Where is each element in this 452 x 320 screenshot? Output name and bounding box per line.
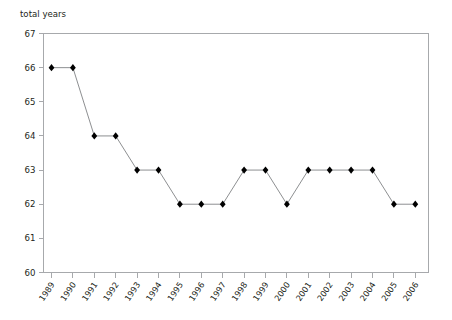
chart-frame xyxy=(44,34,429,273)
x-axis-tick-labels: 1989199019911992199319941995199619971998… xyxy=(37,280,421,303)
y-axis-tick-labels: 6061626364656667 xyxy=(25,29,36,278)
y-axis-title: total years xyxy=(20,9,67,19)
x-tick-label-2000: 2000 xyxy=(272,280,292,303)
x-tick-label-1998: 1998 xyxy=(229,280,249,303)
series-line-total-years xyxy=(52,68,416,205)
data-point-1991 xyxy=(91,132,97,139)
x-tick-label-2006: 2006 xyxy=(401,280,421,303)
data-point-1990 xyxy=(70,64,76,71)
y-tick-label-67: 67 xyxy=(25,29,36,39)
y-axis-ticks xyxy=(39,34,44,273)
y-tick-label-63: 63 xyxy=(25,165,36,175)
x-tick-label-1995: 1995 xyxy=(165,280,185,303)
x-tick-label-1997: 1997 xyxy=(208,280,228,303)
x-tick-label-2003: 2003 xyxy=(336,280,356,303)
x-tick-label-1999: 1999 xyxy=(251,280,271,303)
y-tick-label-62: 62 xyxy=(25,199,36,209)
data-point-2002 xyxy=(327,166,333,173)
y-tick-label-65: 65 xyxy=(25,97,36,107)
x-tick-label-1991: 1991 xyxy=(80,280,100,303)
x-tick-label-2005: 2005 xyxy=(379,280,399,303)
x-tick-label-1996: 1996 xyxy=(187,280,207,303)
y-tick-label-60: 60 xyxy=(25,268,36,278)
x-axis-ticks xyxy=(52,273,416,278)
data-point-2006 xyxy=(412,201,418,208)
y-tick-label-66: 66 xyxy=(25,63,36,73)
x-tick-label-2004: 2004 xyxy=(358,280,378,303)
x-tick-label-1990: 1990 xyxy=(58,280,78,303)
x-tick-label-1994: 1994 xyxy=(144,280,164,303)
data-point-2003 xyxy=(348,166,354,173)
x-tick-label-1989: 1989 xyxy=(37,280,57,303)
data-point-1989 xyxy=(49,64,55,71)
chart-container: 6061626364656667 19891990199119921993199… xyxy=(0,0,452,320)
line-chart: 6061626364656667 19891990199119921993199… xyxy=(0,0,452,320)
data-line xyxy=(52,68,416,205)
x-tick-label-2001: 2001 xyxy=(294,280,314,303)
x-tick-label-1993: 1993 xyxy=(122,280,142,303)
x-tick-label-1992: 1992 xyxy=(101,280,121,303)
x-tick-label-2002: 2002 xyxy=(315,280,335,303)
data-point-1996 xyxy=(198,201,204,208)
y-tick-label-61: 61 xyxy=(25,233,36,243)
y-tick-label-64: 64 xyxy=(25,131,36,141)
